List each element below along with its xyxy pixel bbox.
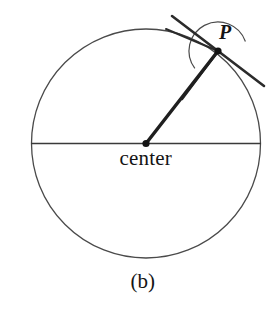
point-P-dot — [214, 47, 221, 54]
figure-caption: (b) — [131, 271, 156, 292]
radius-to-P — [146, 51, 218, 144]
angle-arc-at-P — [189, 22, 245, 68]
figure-container: P center (b) — [0, 0, 277, 310]
center-label: center — [120, 148, 173, 169]
point-P-label: P — [219, 22, 231, 42]
